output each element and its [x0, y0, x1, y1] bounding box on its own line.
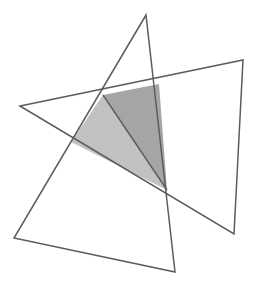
- triangles-figure: [0, 0, 262, 292]
- figure-container: [0, 0, 262, 292]
